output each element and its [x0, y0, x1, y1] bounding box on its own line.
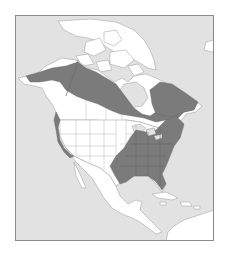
iceland	[204, 40, 214, 52]
caribbean-islands	[152, 192, 200, 209]
range-map	[15, 15, 214, 241]
south-america	[166, 210, 214, 241]
north-america-map	[16, 16, 214, 241]
